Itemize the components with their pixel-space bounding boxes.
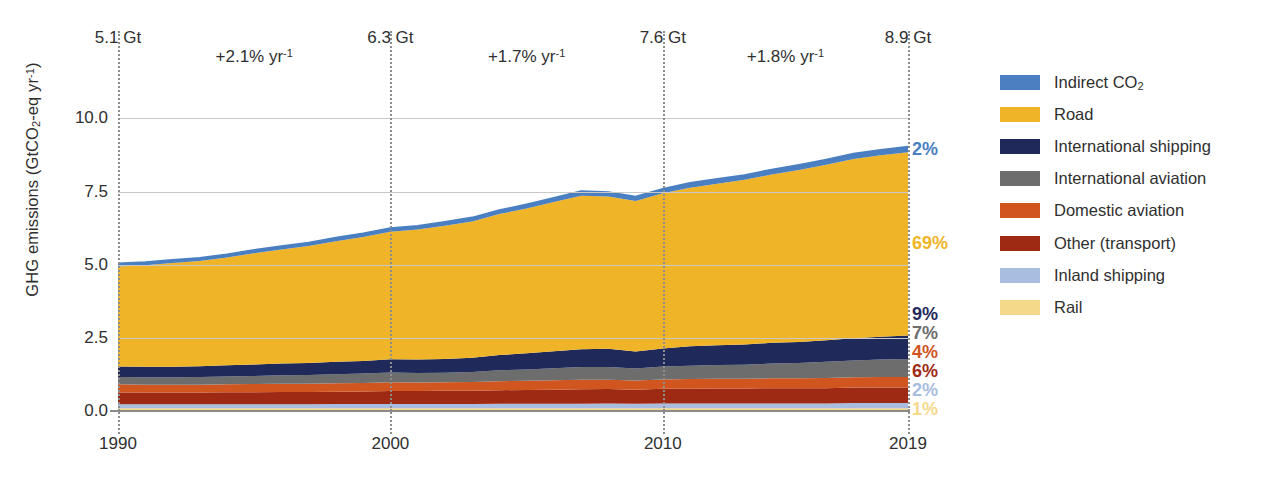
growth-rate-label: +2.1% yr-1 — [159, 47, 349, 67]
growth-rate-exponent: -1 — [814, 47, 824, 59]
legend-item[interactable]: Inland shipping — [1000, 259, 1211, 291]
legend-item[interactable]: Road — [1000, 98, 1211, 130]
x-tick-label: 1990 — [58, 434, 178, 454]
legend-label-text: International shipping — [1054, 137, 1211, 155]
chart-legend: Indirect CO2RoadInternational shippingIn… — [1000, 66, 1211, 324]
x-tick-label: 2000 — [330, 434, 450, 454]
series-share-label: 1% — [912, 399, 938, 420]
series-share-label: 7% — [912, 323, 938, 344]
growth-rate-label: +1.8% yr-1 — [690, 47, 880, 67]
x-tick-mark — [118, 412, 120, 434]
y-tick-label: 2.5 — [38, 328, 108, 348]
x-tick-label: 2019 — [848, 434, 968, 454]
growth-rate-value: +1.7% yr — [488, 47, 556, 66]
gridline — [118, 265, 908, 266]
legend-swatch — [1000, 300, 1040, 315]
legend-label: Other (transport) — [1054, 234, 1176, 253]
legend-swatch — [1000, 236, 1040, 251]
legend-label: Road — [1054, 105, 1093, 124]
legend-label-text: Rail — [1054, 298, 1082, 316]
chart-figure: GHG emissions (GtCO2-eq yr-1) 0.02.55.07… — [0, 0, 1267, 483]
growth-rate-exponent: -1 — [283, 47, 293, 59]
x-tick-mark — [663, 412, 665, 434]
marker-line — [663, 31, 665, 411]
legend-swatch — [1000, 139, 1040, 154]
gridline — [118, 338, 908, 339]
legend-swatch — [1000, 107, 1040, 122]
legend-label: International shipping — [1054, 137, 1211, 156]
legend-label-text: Inland shipping — [1054, 266, 1165, 284]
legend-swatch — [1000, 171, 1040, 186]
series-share-label: 6% — [912, 361, 938, 382]
legend-item[interactable]: Domestic aviation — [1000, 195, 1211, 227]
growth-rate-value: +1.8% yr — [747, 47, 815, 66]
legend-label-text: Road — [1054, 105, 1093, 123]
series-share-label: 69% — [912, 233, 948, 254]
x-axis-line — [110, 410, 910, 412]
y-axis-title-suffix: ) — [23, 62, 41, 68]
marker-line — [118, 31, 120, 411]
legend-label-text: Domestic aviation — [1054, 201, 1184, 219]
legend-label-text: Indirect CO — [1054, 73, 1137, 91]
legend-swatch — [1000, 203, 1040, 218]
y-tick-label: 0.0 — [38, 401, 108, 421]
growth-rate-label: +1.7% yr-1 — [432, 47, 622, 67]
y-tick-label: 5.0 — [38, 255, 108, 275]
area-band — [118, 152, 908, 366]
legend-item[interactable]: Other (transport) — [1000, 227, 1211, 259]
stacked-area-series — [118, 95, 908, 411]
legend-label: Inland shipping — [1054, 266, 1165, 285]
gridline — [118, 192, 908, 193]
plot-area — [118, 95, 908, 411]
legend-item[interactable]: Indirect CO2 — [1000, 66, 1211, 98]
legend-item[interactable]: Rail — [1000, 291, 1211, 323]
legend-swatch — [1000, 268, 1040, 283]
x-tick-mark — [908, 412, 910, 434]
y-tick-label: 7.5 — [38, 182, 108, 202]
y-tick-label: 10.0 — [38, 108, 108, 128]
marker-line — [908, 31, 910, 411]
series-share-label: 2% — [912, 139, 938, 160]
legend-item[interactable]: International aviation — [1000, 163, 1211, 195]
gridline — [118, 118, 908, 119]
marker-line — [390, 31, 392, 411]
legend-label: International aviation — [1054, 169, 1206, 188]
x-tick-label: 2010 — [603, 434, 723, 454]
growth-rate-exponent: -1 — [556, 47, 566, 59]
y-axis-title-sup: -1 — [24, 68, 36, 78]
y-axis-title: GHG emissions (GtCO2-eq yr-1) — [23, 30, 42, 330]
legend-swatch — [1000, 75, 1040, 90]
legend-item[interactable]: International shipping — [1000, 130, 1211, 162]
legend-label: Indirect CO2 — [1054, 73, 1144, 92]
legend-label-text: Other (transport) — [1054, 234, 1176, 252]
legend-label-text: International aviation — [1054, 169, 1206, 187]
series-share-label: 2% — [912, 380, 938, 401]
legend-label-subscript: 2 — [1137, 80, 1143, 92]
series-share-label: 9% — [912, 304, 938, 325]
growth-rate-value: +2.1% yr — [216, 47, 284, 66]
x-tick-mark — [390, 412, 392, 434]
legend-label: Rail — [1054, 298, 1082, 317]
series-share-label: 4% — [912, 342, 938, 363]
legend-label: Domestic aviation — [1054, 201, 1184, 220]
